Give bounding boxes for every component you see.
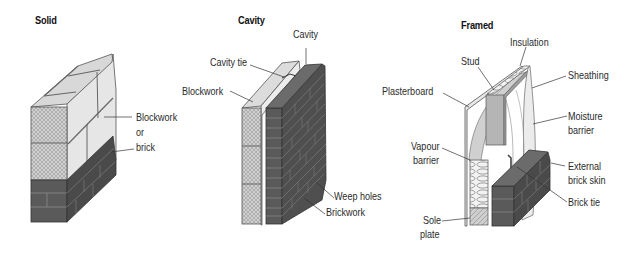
external-brick-skin-label-2: brick skin — [568, 174, 606, 187]
stud-label: Stud — [461, 55, 480, 68]
blockwork-or-brick-label-3: brick — [136, 141, 155, 154]
moisture-barrier-label-2: barrier — [568, 124, 594, 137]
solid-wall-title: Solid — [35, 14, 57, 26]
insulation-label: Insulation — [510, 36, 549, 49]
sheathing-label: Sheathing — [568, 69, 609, 82]
brickwork-label: Brickwork — [326, 206, 365, 219]
moisture-barrier-label-1: Moisture — [568, 110, 603, 123]
external-brick-skin-label-1: External — [568, 160, 601, 173]
blockwork-or-brick-label-1: Blockwork — [136, 111, 177, 124]
cavity-tie-label: Cavity tie — [210, 56, 247, 69]
cavity-wall-drawing — [230, 48, 334, 225]
weep-holes-label: Weep holes — [334, 190, 382, 203]
sole-plate-label-1: Sole — [423, 214, 441, 227]
framed-wall-drawing — [442, 47, 567, 226]
cavity-wall-title: Cavity — [238, 14, 265, 26]
cavity-label: Cavity — [293, 28, 318, 41]
vapour-barrier-label-1: Vapour — [411, 140, 439, 153]
sole-plate-label-2: plate — [420, 228, 440, 241]
brick-tie-label: Brick tie — [568, 196, 600, 209]
blockwork-label: Blockwork — [182, 85, 223, 98]
blockwork-or-brick-label-2: or — [136, 126, 144, 139]
solid-wall-drawing — [31, 54, 134, 222]
framed-wall-title: Framed — [461, 19, 493, 31]
vapour-barrier-label-2: barrier — [413, 154, 439, 167]
plasterboard-label: Plasterboard — [382, 85, 433, 98]
